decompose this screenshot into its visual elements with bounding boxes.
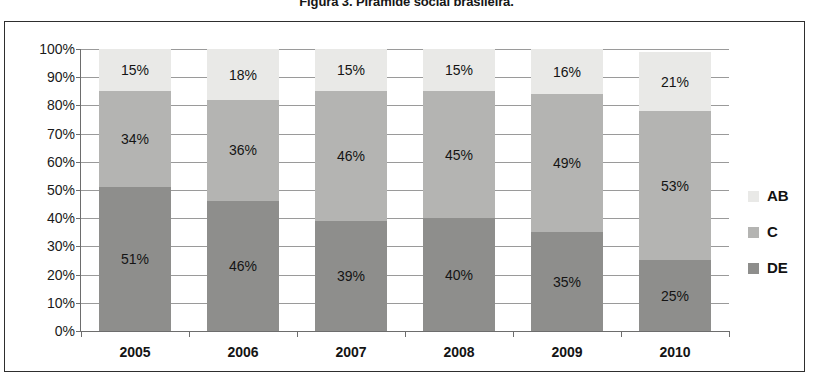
bar-segment-ab[interactable]: 15% <box>423 49 495 91</box>
x-axis-tick-mark <box>621 332 622 337</box>
y-axis-tick-label: 100% <box>13 42 75 56</box>
bar-segment-value-label: 40% <box>423 267 495 283</box>
bar-segment-value-label: 51% <box>99 251 171 267</box>
gridline <box>81 134 729 135</box>
x-axis-tick-label: 2006 <box>188 344 298 360</box>
bar-group[interactable]: 35%49%16% <box>531 49 603 331</box>
y-axis-tick-mark <box>76 162 81 163</box>
y-axis-labels: 100%90%80%70%60%50%40%30%20%10%0% <box>9 49 75 332</box>
figure-caption: Figura 3. Pirâmide social brasileira. <box>0 0 813 9</box>
bar-segment-ab[interactable]: 16% <box>531 49 603 94</box>
bar-segment-de[interactable]: 35% <box>531 232 603 331</box>
legend-swatch-icon <box>748 263 759 274</box>
gridline <box>81 218 729 219</box>
chart-legend: ABCDE <box>742 185 810 293</box>
bar-segment-c[interactable]: 36% <box>207 99 279 201</box>
figure-container: Figura 3. Pirâmide social brasileira. 10… <box>0 0 813 385</box>
gridline <box>81 49 729 50</box>
gridline <box>81 303 729 304</box>
bar-segment-value-label: 18% <box>207 67 279 83</box>
bar-segment-de[interactable]: 46% <box>207 201 279 331</box>
bar-group[interactable]: 39%46%15% <box>315 49 387 331</box>
x-axis-tick-label: 2007 <box>296 344 406 360</box>
gridline <box>81 275 729 276</box>
chart-frame: 100%90%80%70%60%50%40%30%20%10%0% 51%34%… <box>4 21 805 372</box>
gridline <box>81 246 729 247</box>
legend-item-label: C <box>767 222 778 242</box>
y-axis-tick-mark <box>76 218 81 219</box>
bar-segment-value-label: 46% <box>207 258 279 274</box>
x-axis-tick-label: 2009 <box>512 344 622 360</box>
y-axis-tick-label: 20% <box>13 268 75 282</box>
y-axis-tick-mark <box>76 77 81 78</box>
bar-segment-ab[interactable]: 15% <box>99 49 171 91</box>
y-axis-tick-label: 0% <box>13 324 75 338</box>
bar-segment-value-label: 34% <box>99 131 171 147</box>
bar-segment-value-label: 16% <box>531 64 603 80</box>
legend-swatch-icon <box>748 191 759 202</box>
bar-segment-ab[interactable]: 15% <box>315 49 387 91</box>
bar-segment-value-label: 53% <box>639 178 711 194</box>
x-axis-tick-mark <box>513 332 514 337</box>
gridline <box>81 77 729 78</box>
bar-segment-ab[interactable]: 21% <box>639 52 711 111</box>
y-axis-tick-label: 80% <box>13 98 75 112</box>
y-axis-tick-label: 30% <box>13 239 75 253</box>
legend-item-ab[interactable]: AB <box>742 185 810 221</box>
bar-segment-value-label: 15% <box>99 62 171 78</box>
bar-segment-value-label: 36% <box>207 142 279 158</box>
y-axis-tick-mark <box>76 105 81 106</box>
bar-segment-value-label: 45% <box>423 147 495 163</box>
gridline <box>81 105 729 106</box>
bar-segment-value-label: 15% <box>423 62 495 78</box>
x-axis-tick-mark <box>297 332 298 337</box>
legend-item-c[interactable]: C <box>742 221 810 257</box>
x-axis-tick-mark <box>189 332 190 337</box>
x-axis-tick-mark <box>729 332 730 337</box>
bar-segment-de[interactable]: 51% <box>99 187 171 331</box>
bar-segment-c[interactable]: 34% <box>99 91 171 187</box>
bar-segment-value-label: 39% <box>315 268 387 284</box>
bar-segment-c[interactable]: 49% <box>531 94 603 232</box>
bar-group[interactable]: 40%45%15% <box>423 49 495 331</box>
legend-item-label: AB <box>767 186 789 206</box>
y-axis-tick-mark <box>76 190 81 191</box>
gridline <box>81 162 729 163</box>
y-axis-tick-mark <box>76 134 81 135</box>
bar-segment-value-label: 25% <box>639 288 711 304</box>
bar-segment-value-label: 49% <box>531 155 603 171</box>
x-axis-tick-label: 2005 <box>80 344 190 360</box>
y-axis-tick-mark <box>76 303 81 304</box>
y-axis-tick-mark <box>76 246 81 247</box>
bar-segment-c[interactable]: 46% <box>315 91 387 221</box>
y-axis-tick-mark <box>76 49 81 50</box>
bar-segment-c[interactable]: 45% <box>423 91 495 218</box>
y-axis-tick-label: 70% <box>13 127 75 141</box>
y-axis-tick-mark <box>76 275 81 276</box>
x-axis-tick-label: 2008 <box>404 344 514 360</box>
gridline <box>81 190 729 191</box>
legend-item-de[interactable]: DE <box>742 257 810 293</box>
bar-group[interactable]: 46%36%18% <box>207 49 279 331</box>
bar-segment-de[interactable]: 40% <box>423 218 495 331</box>
legend-swatch-icon <box>748 227 759 238</box>
y-axis-tick-label: 90% <box>13 70 75 84</box>
y-axis-tick-label: 50% <box>13 183 75 197</box>
legend-item-label: DE <box>767 258 788 278</box>
bar-segment-value-label: 35% <box>531 274 603 290</box>
bar-segment-ab[interactable]: 18% <box>207 49 279 100</box>
bar-segment-value-label: 46% <box>315 148 387 164</box>
bar-segment-de[interactable]: 39% <box>315 221 387 331</box>
y-axis-tick-label: 60% <box>13 155 75 169</box>
x-axis-tick-label: 2010 <box>620 344 730 360</box>
plot-area: 51%34%15%46%36%18%39%46%15%40%45%15%35%4… <box>81 49 729 331</box>
y-axis-tick-label: 10% <box>13 296 75 310</box>
y-axis-tick-label: 40% <box>13 211 75 225</box>
x-axis-tick-mark <box>81 332 82 337</box>
bar-segment-c[interactable]: 53% <box>639 111 711 260</box>
bar-group[interactable]: 51%34%15% <box>99 49 171 331</box>
bar-segment-value-label: 21% <box>639 74 711 90</box>
bar-segment-de[interactable]: 25% <box>639 260 711 331</box>
bar-segment-value-label: 15% <box>315 62 387 78</box>
bar-group[interactable]: 25%53%21% <box>639 49 711 331</box>
